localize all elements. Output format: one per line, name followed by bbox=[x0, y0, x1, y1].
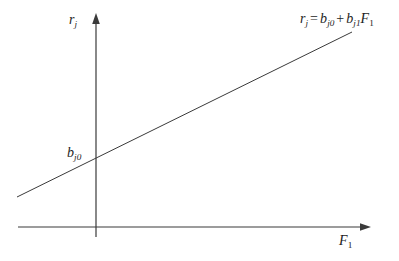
equation-lhs-subscript: j bbox=[306, 18, 309, 28]
x-axis bbox=[18, 223, 371, 231]
equation-intercept-subscript: j0 bbox=[327, 18, 334, 28]
equation-factor-subscript: 1 bbox=[369, 18, 374, 28]
regression-equation-label: rj=bj0+bj1F1 bbox=[300, 12, 374, 26]
x-axis-arrowhead-icon bbox=[360, 223, 371, 231]
y-axis-label: rj bbox=[69, 13, 77, 27]
regression-line-figure: rj bj0 F1 rj=bj0+bj1F1 bbox=[0, 0, 399, 261]
y-axis-label-base: r bbox=[69, 12, 75, 27]
y-axis bbox=[92, 13, 100, 237]
equation-plus-sign: + bbox=[334, 11, 346, 26]
equation-factor-base: F bbox=[361, 11, 370, 26]
x-axis-label-base: F bbox=[339, 233, 348, 248]
equation-slope-subscript: j1 bbox=[353, 18, 360, 28]
intercept-label-subscript: j0 bbox=[74, 152, 81, 162]
equation-lhs-base: r bbox=[300, 11, 306, 26]
regression-line bbox=[17, 32, 352, 197]
y-axis-arrowhead-icon bbox=[92, 13, 100, 24]
x-axis-label-subscript: 1 bbox=[348, 240, 353, 250]
intercept-label: bj0 bbox=[67, 146, 81, 160]
y-axis-label-subscript: j bbox=[75, 19, 78, 29]
plot-canvas bbox=[0, 0, 399, 261]
x-axis-label: F1 bbox=[339, 234, 352, 248]
equation-equals-sign: = bbox=[308, 11, 320, 26]
